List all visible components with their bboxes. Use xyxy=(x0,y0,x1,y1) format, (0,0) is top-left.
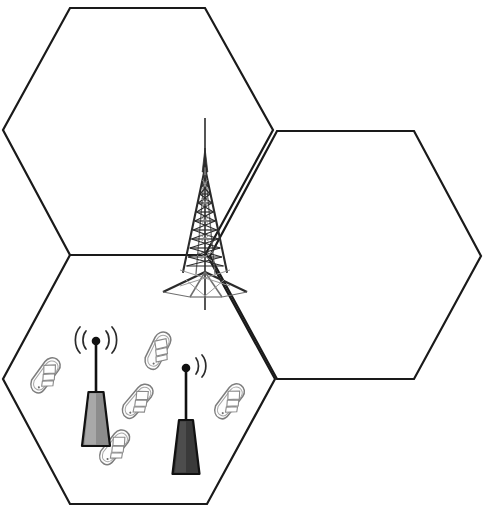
base-station-dark-antenna-ball xyxy=(182,364,191,373)
network-diagram-canvas xyxy=(0,0,484,516)
cellular-network-figure: Cellular network coverage diagram Three … xyxy=(0,0,484,516)
hexagon-cell-group xyxy=(3,8,481,504)
base-station-grey-antenna-ball xyxy=(92,337,101,346)
